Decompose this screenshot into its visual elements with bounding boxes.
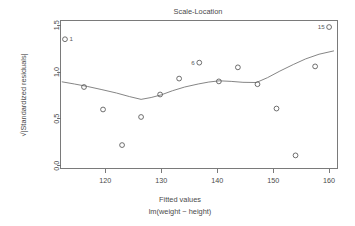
data-point — [139, 115, 144, 120]
y-tick-label: 1.0 — [52, 67, 61, 77]
y-tick-label-group: 1.5 — [52, 20, 61, 30]
data-point — [101, 107, 106, 112]
data-point — [293, 153, 298, 158]
y-axis-ticks — [57, 25, 61, 166]
y-tick-label: 0.5 — [52, 114, 61, 124]
data-point — [63, 37, 68, 42]
data-point — [327, 25, 332, 30]
plot-panel-box — [61, 21, 338, 169]
chart-title: Scale-Location — [174, 7, 223, 16]
data-point — [235, 65, 240, 70]
y-tick-label-group: 1.0 — [52, 67, 61, 77]
x-tick-label: 120 — [99, 176, 111, 185]
x-axis-title: Fitted values — [159, 195, 201, 204]
y-tick-label: 1.5 — [52, 20, 61, 30]
point-labels-group: 1615 — [69, 23, 325, 66]
y-tick-label-group: 0.0 — [52, 161, 61, 171]
x-tick-label: 160 — [323, 176, 335, 185]
x-axis-ticks — [105, 169, 329, 173]
data-point — [177, 76, 182, 81]
x-axis-subtitle: lm(weight ~ height) — [149, 207, 212, 216]
loess-smooth-line — [62, 51, 333, 99]
data-point — [82, 85, 87, 90]
data-point — [197, 60, 202, 65]
x-tick-label: 140 — [211, 176, 223, 185]
scale-location-plot: 1615 0.00.51.01.5 120130140150160 Scale-… — [0, 0, 355, 226]
y-axis-title: √|Standardized residuals| — [19, 53, 28, 136]
data-point — [255, 82, 260, 87]
point-index-label: 1 — [69, 35, 73, 42]
x-tick-label: 150 — [267, 176, 279, 185]
y-tick-label: 0.0 — [52, 161, 61, 171]
point-index-label: 15 — [318, 23, 325, 30]
data-point — [274, 106, 279, 111]
x-tick-label: 130 — [155, 176, 167, 185]
x-tick-labels: 120130140150160 — [99, 176, 335, 185]
data-point — [313, 64, 318, 69]
y-tick-label-group: 0.5 — [52, 114, 61, 124]
data-point — [120, 143, 125, 148]
chart-canvas: 1615 0.00.51.01.5 120130140150160 Scale-… — [0, 0, 355, 226]
y-tick-labels: 0.00.51.01.5 — [52, 20, 61, 171]
point-index-label: 6 — [191, 59, 195, 66]
data-points-group — [63, 25, 332, 158]
y-axis-title-group: √|Standardized residuals| — [19, 53, 28, 136]
y-axis-title-text: |Standardized residuals| — [19, 53, 28, 132]
